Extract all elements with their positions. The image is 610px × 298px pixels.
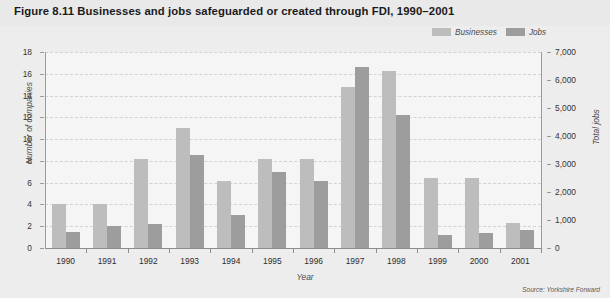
bar-group <box>458 52 499 248</box>
y-axis-left-tickmark <box>40 74 44 75</box>
bar-group <box>45 52 86 248</box>
y-axis-right-tickmark <box>547 192 551 193</box>
y-axis-left-line <box>45 52 46 248</box>
bar-jobs <box>520 230 534 249</box>
y-axis-right-tick-label: 7,000 <box>555 47 576 57</box>
x-axis-tickmark <box>293 248 294 253</box>
y-axis-right-tickmark <box>547 52 551 53</box>
bar-businesses <box>465 178 479 248</box>
y-axis-left-tick-label: 18 <box>23 47 32 57</box>
bar-businesses <box>300 159 314 248</box>
title-bar: Figure 8.11 Businesses and jobs safeguar… <box>0 0 610 26</box>
x-axis-tickmark <box>376 248 377 253</box>
y-axis-left-tickmark <box>40 248 44 249</box>
legend-item-jobs: Jobs <box>506 28 546 37</box>
bar-jobs <box>314 181 328 249</box>
x-axis-tickmark <box>541 248 542 253</box>
figure-title: Figure 8.11 Businesses and jobs safeguar… <box>14 5 454 17</box>
bar-jobs <box>355 67 369 248</box>
y-axis-right-tick-label: 1,000 <box>555 215 576 225</box>
y-axis-left-tickmark <box>40 96 44 97</box>
y-axis-left-title: Number of companies <box>24 68 34 178</box>
bar-group <box>210 52 251 248</box>
bar-businesses <box>382 71 396 248</box>
x-axis-tickmark <box>500 248 501 253</box>
bar-jobs <box>190 155 204 248</box>
bar-businesses <box>93 204 107 248</box>
legend-label-jobs: Jobs <box>529 28 546 37</box>
bar-businesses <box>258 159 272 248</box>
bar-businesses <box>52 204 66 248</box>
source-note: Source: Yorkshire Forward <box>522 286 600 293</box>
x-axis-tickmark <box>128 248 129 253</box>
bar-jobs <box>396 115 410 248</box>
y-axis-right-tick-label: 3,000 <box>555 159 576 169</box>
y-axis-right-tickmark <box>547 220 551 221</box>
legend-item-businesses: Businesses <box>432 28 497 37</box>
bar-group <box>86 52 127 248</box>
bar-jobs <box>479 233 493 248</box>
bar-jobs <box>107 226 121 248</box>
y-axis-left-tickmark <box>40 204 44 205</box>
y-axis-left-tickmark <box>40 52 44 53</box>
bar-jobs <box>231 215 245 248</box>
x-axis-tickmark <box>169 248 170 253</box>
bar-jobs <box>438 235 452 248</box>
x-axis-tick-label: 2001 <box>495 256 545 266</box>
y-axis-right-tickmark <box>547 136 551 137</box>
y-axis-right-tickmark <box>547 164 551 165</box>
y-axis-left-tick-label: 2 <box>27 221 32 231</box>
x-axis-tickmark <box>252 248 253 253</box>
y-axis-left-tick-label: 6 <box>27 178 32 188</box>
x-axis-tickmark <box>210 248 211 253</box>
y-axis-right-tickmark <box>547 80 551 81</box>
bar-group <box>128 52 169 248</box>
bar-group <box>334 52 375 248</box>
legend-label-businesses: Businesses <box>455 28 497 37</box>
x-axis-tickmark <box>334 248 335 253</box>
legend-swatch-jobs <box>506 28 525 36</box>
y-axis-left-tickmark <box>40 161 44 162</box>
bar-businesses <box>134 159 148 248</box>
bar-jobs <box>148 224 162 248</box>
y-axis-left-tick-label: 0 <box>27 243 32 253</box>
y-axis-left-tickmark <box>40 139 44 140</box>
y-axis-right-tickmark <box>547 108 551 109</box>
y-axis-left-tickmark <box>40 183 44 184</box>
y-axis-right-tick-label: 5,000 <box>555 103 576 113</box>
bar-businesses <box>217 181 231 249</box>
y-axis-right-tick-label: 2,000 <box>555 187 576 197</box>
bar-jobs <box>272 172 286 248</box>
y-axis-left-tickmark <box>40 226 44 227</box>
bar-businesses <box>424 178 438 248</box>
y-axis-right-tick-label: 0 <box>555 243 560 253</box>
bar-group <box>169 52 210 248</box>
bar-group <box>293 52 334 248</box>
x-axis-title: Year <box>0 272 610 282</box>
y-axis-left-tickmark <box>40 117 44 118</box>
bar-group <box>376 52 417 248</box>
bar-groups <box>45 52 541 248</box>
bar-jobs <box>66 232 80 248</box>
figure-container: Figure 8.11 Businesses and jobs safeguar… <box>0 0 610 298</box>
bar-businesses <box>341 87 355 248</box>
chart-legend: Businesses Jobs <box>432 26 546 38</box>
x-axis-tickmark <box>86 248 87 253</box>
bar-group <box>417 52 458 248</box>
bar-businesses <box>506 223 520 248</box>
plot-area <box>45 52 541 248</box>
y-axis-right-title: Total jobs <box>591 87 601 167</box>
y-axis-right-tick-label: 6,000 <box>555 75 576 85</box>
y-axis-right-tick-label: 4,000 <box>555 131 576 141</box>
y-axis-right-tickmark <box>547 248 551 249</box>
bar-businesses <box>176 128 190 248</box>
y-axis-right-line <box>541 52 542 248</box>
x-axis-tickmark <box>417 248 418 253</box>
legend-swatch-businesses <box>432 28 451 36</box>
x-axis-tickmark <box>458 248 459 253</box>
bar-group <box>500 52 541 248</box>
y-axis-left-tick-label: 4 <box>27 199 32 209</box>
bar-group <box>252 52 293 248</box>
